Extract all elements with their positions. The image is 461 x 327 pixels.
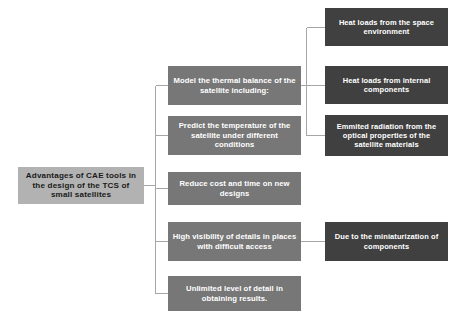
node-root-label: Advantages of CAE tools in the design of… bbox=[22, 171, 140, 201]
node-leaf-heat-loads-space-environment[interactable]: Heat loads from the space environment bbox=[325, 8, 448, 46]
node-leaf-heat-loads-internal-components[interactable]: Heat loads from internal components bbox=[325, 66, 448, 104]
node-leaf-emitted-radiation-optical-properties[interactable]: Emmited radiation from the optical prope… bbox=[325, 115, 448, 156]
node-branch-label: Unlimited level of detail in obtaining r… bbox=[172, 284, 297, 303]
node-branch-label: High visibility of details in places wit… bbox=[172, 232, 297, 251]
node-leaf-label: Heat loads from the space environment bbox=[329, 18, 444, 36]
node-root[interactable]: Advantages of CAE tools in the design of… bbox=[18, 167, 144, 204]
node-leaf-label: Emmited radiation from the optical prope… bbox=[329, 122, 444, 149]
node-leaf-due-to-miniaturization[interactable]: Due to the miniaturization of components bbox=[325, 222, 448, 261]
node-leaf-label: Due to the miniaturization of components bbox=[329, 232, 444, 250]
node-branch-high-visibility-details[interactable]: High visibility of details in places wit… bbox=[168, 222, 301, 261]
node-branch-reduce-cost-and-time[interactable]: Reduce cost and time on new designs bbox=[168, 172, 301, 205]
advantages-of-cae-tools-diagram: Advantages of CAE tools in the design of… bbox=[0, 0, 461, 327]
node-branch-label: Reduce cost and time on new designs bbox=[172, 179, 297, 198]
node-leaf-label: Heat loads from internal components bbox=[329, 76, 444, 94]
node-branch-predict-temperature[interactable]: Predict the temperature of the satellite… bbox=[168, 116, 301, 155]
node-branch-label: Model the thermal balance of the satelli… bbox=[172, 76, 297, 95]
node-branch-unlimited-level-of-detail[interactable]: Unlimited level of detail in obtaining r… bbox=[168, 276, 301, 311]
node-branch-model-thermal-balance[interactable]: Model the thermal balance of the satelli… bbox=[168, 66, 301, 105]
node-branch-label: Predict the temperature of the satellite… bbox=[172, 121, 297, 149]
